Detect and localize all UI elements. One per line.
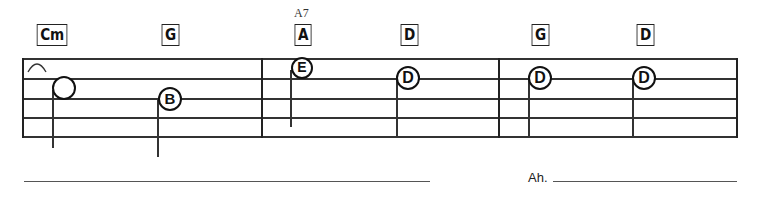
note-stem-4 <box>396 80 398 137</box>
lyric-blank-2 <box>553 181 737 182</box>
fermata-icon <box>26 60 48 74</box>
barline-1 <box>261 58 263 138</box>
note-stem-1 <box>52 90 54 148</box>
staff-line-1 <box>22 58 737 60</box>
note-head-2: B <box>158 87 182 111</box>
note-head-6: D <box>632 66 656 90</box>
note-head-5: D <box>528 66 552 90</box>
chord-symbol-4: D <box>401 24 419 46</box>
note-stem-3 <box>290 70 292 127</box>
staff-line-2 <box>22 78 737 80</box>
staff-line-3 <box>22 98 737 100</box>
note-head-3: E <box>291 57 313 79</box>
staff-line-4 <box>22 117 737 119</box>
lyric-text: Ah. <box>528 170 548 185</box>
chord-symbol-1: Cm <box>37 24 68 46</box>
note-stem-5 <box>528 80 530 137</box>
note-head-4: D <box>396 66 420 90</box>
barline-end <box>736 58 738 138</box>
chord-symbol-2: G <box>162 24 180 46</box>
chord-symbol-3: A <box>295 24 312 46</box>
alt-chord-label: A7 <box>294 6 309 21</box>
note-stem-2 <box>157 100 159 157</box>
note-stem-6 <box>632 80 634 137</box>
note-head-1 <box>52 76 76 100</box>
lyric-blank-1 <box>24 181 430 182</box>
chord-symbol-5: G <box>532 24 550 46</box>
barline-start <box>22 58 24 138</box>
staff-line-5 <box>22 136 737 138</box>
barline-2 <box>498 58 500 138</box>
chord-symbol-6: D <box>637 24 655 46</box>
